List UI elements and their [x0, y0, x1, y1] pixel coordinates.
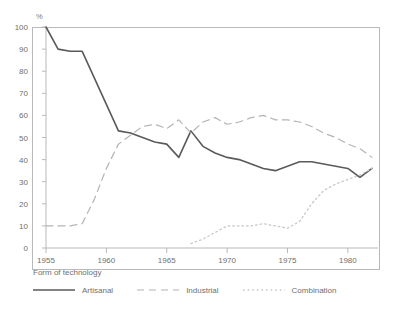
legend-swatch-artisanal	[33, 286, 75, 294]
series-line-combination	[191, 168, 372, 243]
legend-label-combination: Combination	[292, 286, 337, 295]
legend-item-industrial: Industrial	[137, 286, 218, 295]
chart-legend: Artisanal Industrial Combination	[33, 283, 337, 297]
chart-screenshot: % 1009080706050403020100 195519601965197…	[0, 0, 393, 310]
legend-label-artisanal: Artisanal	[82, 286, 113, 295]
legend-swatch-industrial	[137, 286, 179, 294]
legend-title: Form of technology	[33, 268, 101, 277]
legend-swatch-combination	[243, 286, 285, 294]
legend-item-artisanal: Artisanal	[33, 286, 113, 295]
legend-label-industrial: Industrial	[186, 286, 218, 295]
series-line-industrial	[46, 115, 372, 225]
legend-item-combination: Combination	[243, 286, 337, 295]
series-line-artisanal	[46, 27, 372, 177]
chart-plot-area	[0, 0, 393, 310]
